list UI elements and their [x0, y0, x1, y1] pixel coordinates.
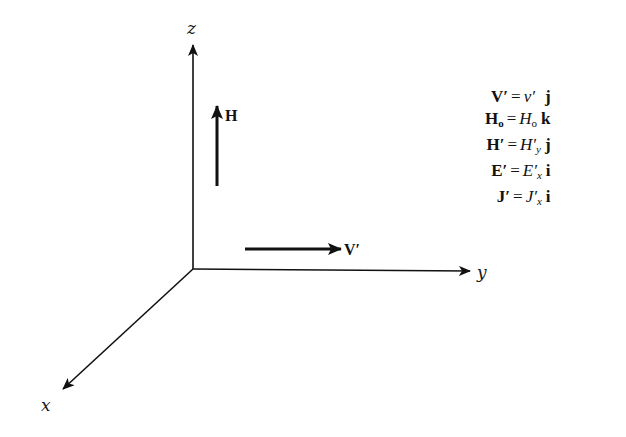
- x-axis-label: x: [41, 395, 51, 415]
- h-vector-label: H: [225, 107, 238, 124]
- equation-h-prime: H′ = H′y j: [485, 134, 551, 160]
- equation-e-prime: E′ = E′x i: [485, 160, 551, 186]
- y-axis-label: y: [476, 262, 487, 282]
- equation-h0: Ho = Ho k: [485, 108, 551, 134]
- v-vector-label: V′: [344, 241, 360, 258]
- equation-list: V′ = v′ j Ho = Ho k H′ = H′y j E′ = E′x …: [485, 86, 551, 212]
- coordinate-diagram: z y x H V′: [0, 0, 626, 437]
- equation-v: V′ = v′ j: [485, 86, 551, 108]
- x-axis: [63, 269, 193, 389]
- equation-j-prime: J′ = J′x i: [485, 186, 551, 212]
- z-axis-label: z: [186, 18, 197, 38]
- y-axis: [193, 269, 470, 271]
